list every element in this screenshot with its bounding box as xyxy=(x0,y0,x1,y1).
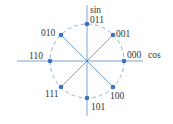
label-011: 011 xyxy=(90,15,104,25)
point-111 xyxy=(59,85,64,90)
label-001: 001 xyxy=(116,29,131,39)
point-110 xyxy=(48,59,53,64)
origin-point xyxy=(86,60,88,62)
point-000 xyxy=(122,59,127,64)
point-001 xyxy=(111,33,116,38)
label-100: 100 xyxy=(110,91,125,101)
point-101 xyxy=(85,96,90,101)
label-111: 111 xyxy=(45,89,59,99)
label-110: 110 xyxy=(29,51,43,61)
label-000: 000 xyxy=(127,50,142,60)
cos-axis-label: cos xyxy=(148,50,161,60)
point-011 xyxy=(85,22,90,27)
label-010: 010 xyxy=(41,28,56,38)
point-100 xyxy=(111,85,116,90)
point-010 xyxy=(59,33,64,38)
sin-axis-label: sin xyxy=(90,5,101,15)
label-101: 101 xyxy=(91,102,106,112)
constellation-diagram: sin cos 000 001 011 010 110 111 101 100 xyxy=(0,0,173,124)
